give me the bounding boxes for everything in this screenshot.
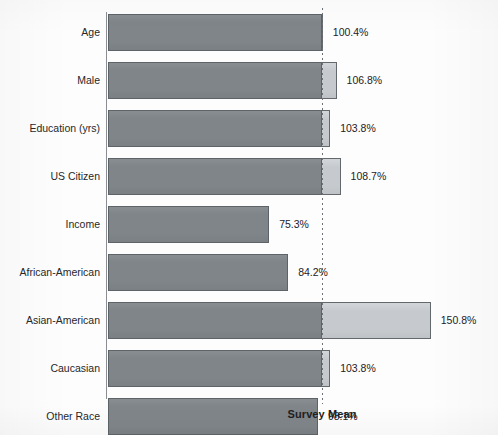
category-label: Caucasian — [0, 363, 100, 374]
bar-segment-below-mean — [108, 302, 322, 339]
category-label-wrap: Income — [0, 219, 100, 231]
category-label: Other Race — [0, 411, 100, 422]
category-label: Age — [0, 27, 100, 38]
survey-mean-reference-line — [322, 8, 323, 404]
bar-value-label: 84.2% — [298, 267, 328, 278]
bar-value-label: 108.7% — [351, 171, 387, 182]
bar-segment-below-mean — [108, 110, 322, 147]
bar-segment-above-mean — [322, 110, 330, 147]
bar-value-label: 98.1% — [328, 411, 358, 422]
category-label: Income — [0, 219, 100, 230]
bar-segment-below-mean — [108, 350, 322, 387]
category-label-wrap: US Citizen — [0, 171, 100, 183]
chart-canvas: AgeMaleEducation (yrs)US CitizenIncomeAf… — [0, 0, 498, 435]
category-label: Education (yrs) — [0, 123, 100, 134]
bar-segment-above-mean — [322, 350, 330, 387]
category-label-wrap: Other Race — [0, 411, 100, 423]
survey-mean-label: Survey Mean — [262, 408, 382, 420]
bar-value-label: 106.8% — [347, 75, 383, 86]
bar-value-label: 103.8% — [340, 363, 376, 374]
bar-segment-below-mean — [108, 254, 288, 291]
bar-value-label: 150.8% — [441, 315, 477, 326]
category-label: Male — [0, 75, 100, 86]
bar-segment-above-mean — [322, 158, 341, 195]
category-label-wrap: Caucasian — [0, 363, 100, 375]
category-label: US Citizen — [0, 171, 100, 182]
bar-segment-below-mean — [108, 14, 322, 51]
bar-value-label: 103.8% — [340, 123, 376, 134]
y-axis-line — [106, 12, 107, 399]
bar-segment-below-mean — [108, 206, 269, 243]
bar-segment-above-mean — [322, 302, 431, 339]
category-label-wrap: Asian-American — [0, 315, 100, 327]
category-label-wrap: African-American — [0, 267, 100, 279]
category-label-wrap: Education (yrs) — [0, 123, 100, 135]
category-label: Asian-American — [0, 315, 100, 326]
bar-segment-below-mean — [108, 62, 322, 99]
bar-value-label: 100.4% — [333, 27, 369, 38]
bar-chart-plot-area: AgeMaleEducation (yrs)US CitizenIncomeAf… — [0, 0, 498, 435]
bar-value-label: 75.3% — [279, 219, 309, 230]
bar-segment-below-mean — [108, 158, 322, 195]
category-label-wrap: Age — [0, 27, 100, 39]
category-label-wrap: Male — [0, 75, 100, 87]
category-label: African-American — [0, 267, 100, 278]
bar-segment-above-mean — [322, 62, 337, 99]
